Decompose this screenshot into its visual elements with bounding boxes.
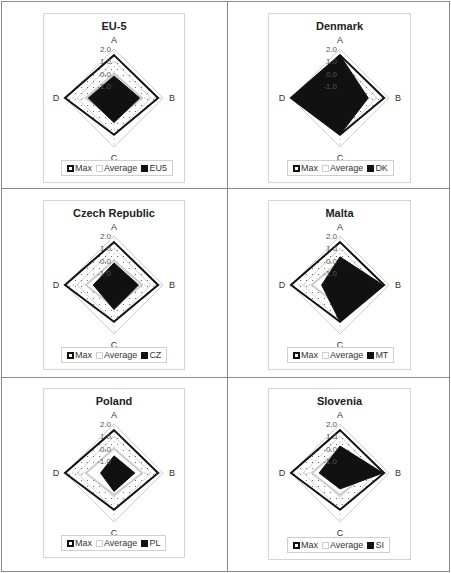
radar-chart-pl: PolandABCD2.01.00.0-1.0MaxAveragePL [43,388,185,558]
tick-label: 1.0 [100,57,112,66]
legend-label: PL [149,538,160,548]
legend-label: Max [75,350,92,360]
legend-item-average: Average [96,538,137,548]
legend-swatch [322,352,329,359]
legend-item-max: Max [67,538,92,548]
legend-swatch [96,352,103,359]
legend-item-country: EU5 [141,163,167,173]
legend-swatch [293,542,300,549]
legend-item-max: Max [293,163,318,173]
radar-plot: ABCD2.01.00.0-1.0 [269,389,410,559]
legend-item-country: CZ [141,350,161,360]
row-divider [2,188,449,189]
radar-plot: ABCD2.01.00.0-1.0 [44,389,184,557]
legend-item-max: Max [67,163,92,173]
tick-label: 2.0 [100,420,112,429]
legend-swatch [367,542,374,549]
column-divider [227,2,228,571]
legend-label: Average [104,350,137,360]
axis-label-a: A [111,410,117,420]
legend-swatch [96,165,103,172]
tick-label: -1.0 [323,82,337,91]
axis-label-b: B [395,468,401,478]
legend-swatch [141,352,148,359]
tick-label: 0.0 [326,70,338,79]
tick-label: 2.0 [326,420,338,429]
radar-chart-mt: MaltaABCD2.01.00.0-1.0MaxAverageMT [268,200,411,370]
legend-item-country: PL [141,538,160,548]
legend-swatch [67,165,74,172]
tick-label: 2.0 [100,232,112,241]
tick-label: 2.0 [100,45,112,54]
row-divider [2,377,449,378]
chart-legend: MaxAverageDK [287,160,394,176]
legend-label: Max [75,163,92,173]
tick-label: -1.0 [97,457,111,466]
tick-label: 2.0 [326,232,338,241]
legend-item-average: Average [96,350,137,360]
chart-legend: MaxAverageMT [287,347,394,363]
tick-label: -1.0 [323,269,337,278]
legend-item-average: Average [96,163,137,173]
radar-plot: ABCD2.01.00.0-1.0 [269,201,410,369]
radar-plot: ABCD2.01.00.0-1.0 [44,14,184,182]
axis-label-b: B [395,280,401,290]
legend-swatch [367,352,374,359]
axis-label-d: D [279,468,286,478]
tick-label: 2.0 [326,45,338,54]
tick-label: 1.0 [100,244,112,253]
legend-item-average: Average [322,350,363,360]
legend-swatch [141,540,148,547]
tick-label: 0.0 [100,445,112,454]
legend-swatch [367,165,374,172]
axis-label-a: A [111,35,117,45]
legend-swatch [141,165,148,172]
legend-label: EU5 [149,163,167,173]
axis-label-d: D [279,93,286,103]
tick-label: -1.0 [323,457,337,466]
tick-label: -1.0 [97,82,111,91]
tick-label: 1.0 [100,432,112,441]
tick-label: 0.0 [326,445,338,454]
radar-chart-eu5: EU-5ABCD2.01.00.0-1.0MaxAverageEU5 [43,13,185,183]
axis-label-a: A [337,410,343,420]
legend-swatch [322,542,329,549]
radar-chart-cz: Czech RepublicABCD2.01.00.0-1.0MaxAverag… [43,200,185,370]
legend-label: Average [104,538,137,548]
tick-label: 1.0 [326,244,338,253]
legend-item-average: Average [322,163,363,173]
legend-label: Max [75,538,92,548]
axis-label-b: B [169,93,175,103]
radar-plot: ABCD2.01.00.0-1.0 [44,201,184,369]
tick-label: 0.0 [326,257,338,266]
legend-swatch [293,165,300,172]
axis-label-b: B [169,468,175,478]
chart-legend: MaxAverageCZ [61,347,167,363]
legend-item-max: Max [293,350,318,360]
axis-label-a: A [337,222,343,232]
legend-swatch [67,352,74,359]
radar-chart-si: SloveniaABCD2.01.00.0-1.0MaxAverageSI [268,388,411,560]
legend-label: Max [301,350,318,360]
tick-label: 1.0 [326,432,338,441]
tick-label: 0.0 [100,70,112,79]
legend-label: Max [301,163,318,173]
axis-label-b: B [169,280,175,290]
legend-label: DK [375,163,388,173]
tick-label: 0.0 [100,257,112,266]
legend-label: Average [330,540,363,550]
chart-legend: MaxAverageSI [287,537,390,553]
legend-label: SI [375,540,384,550]
chart-legend: MaxAveragePL [61,535,166,551]
chart-legend: MaxAverageEU5 [61,160,173,176]
legend-label: Average [330,350,363,360]
legend-swatch [67,540,74,547]
series-country [291,55,368,135]
axis-label-d: D [279,280,286,290]
legend-label: MT [375,350,388,360]
tick-label: 1.0 [326,57,338,66]
legend-item-max: Max [293,540,318,550]
legend-label: CZ [149,350,161,360]
legend-item-country: MT [367,350,388,360]
tick-label: -1.0 [97,269,111,278]
